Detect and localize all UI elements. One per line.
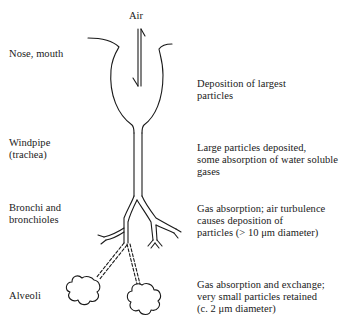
nose-mouth-cavity-outline — [88, 38, 172, 133]
airflow-arrows-icon — [133, 29, 145, 86]
alveoli-cluster-right-icon — [127, 284, 160, 315]
bronchioles-dashed — [96, 243, 140, 284]
bronchi-outline — [98, 196, 181, 248]
respiratory-tract-drawing — [0, 0, 344, 329]
trachea-outline — [134, 133, 142, 196]
alveoli-cluster-left-icon — [66, 276, 99, 305]
